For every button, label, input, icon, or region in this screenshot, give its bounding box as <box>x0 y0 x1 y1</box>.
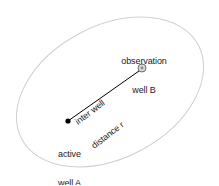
well-distance-figure: observation well B active well A inter w… <box>0 0 219 185</box>
observation-well-label-line1: observation <box>106 57 182 67</box>
active-well-label-line2: well A <box>58 179 118 186</box>
